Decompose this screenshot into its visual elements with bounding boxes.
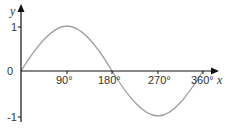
origin-label: 0 — [7, 65, 13, 77]
y-axis-label: y — [9, 4, 16, 18]
y-tick-label-1: 1 — [11, 21, 17, 33]
x-tick-label-360: 360° — [191, 74, 214, 86]
x-tick-label-180: 180° — [98, 74, 121, 86]
y-axis-arrow-icon — [18, 4, 25, 12]
x-axis-label: x — [216, 73, 223, 87]
sine-chart: y x 1 0 -1 90° 180° 270° 360° — [0, 0, 226, 131]
x-tick-label-90: 90° — [56, 74, 73, 86]
y-tick-label-minus-1: -1 — [7, 111, 17, 123]
x-tick-label-270: 270° — [148, 74, 171, 86]
